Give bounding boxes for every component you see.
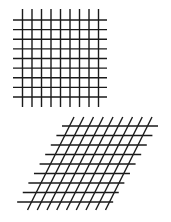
grid-figure — [0, 0, 171, 222]
sheared-grid — [17, 117, 158, 210]
square-grid — [13, 9, 107, 107]
